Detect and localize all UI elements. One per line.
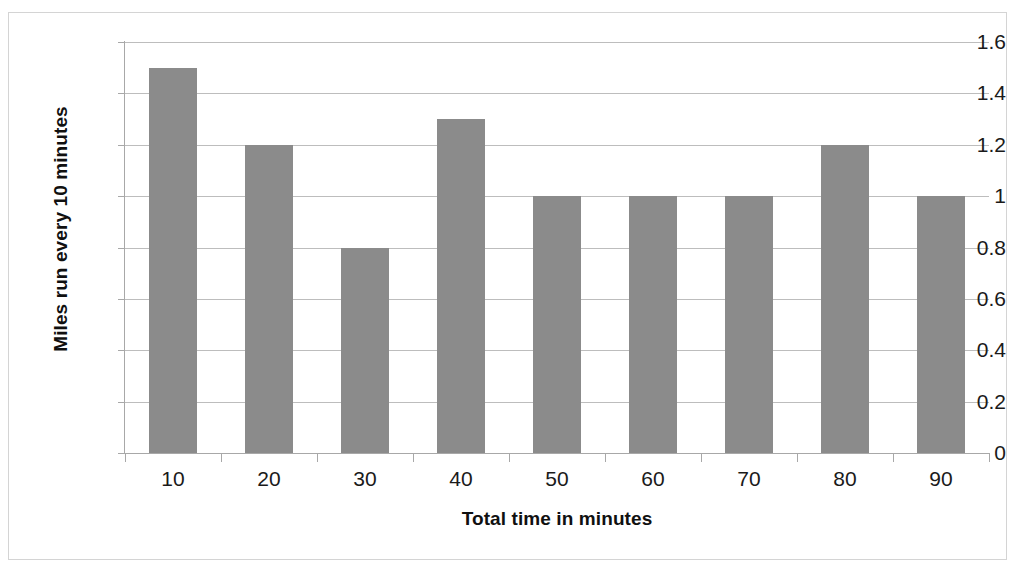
y-axis-label: 1 bbox=[906, 185, 1006, 206]
y-axis-label: 1.6 bbox=[906, 31, 1006, 52]
plot-area bbox=[125, 42, 989, 453]
x-axis-tick bbox=[605, 453, 606, 462]
bars-group bbox=[125, 42, 989, 453]
y-axis-tick bbox=[118, 196, 125, 197]
bar-slot bbox=[821, 42, 869, 453]
bar-slot bbox=[245, 42, 293, 453]
x-axis-label-30: 30 bbox=[317, 468, 413, 489]
x-axis-tick bbox=[509, 453, 510, 462]
y-axis-tick bbox=[118, 299, 125, 300]
gridline-0 bbox=[125, 453, 989, 454]
bar-slot bbox=[725, 42, 773, 453]
y-axis-label: 0.4 bbox=[906, 339, 1006, 360]
x-axis-tick bbox=[221, 453, 222, 462]
chart-frame: 00.20.40.60.811.21.41.6 1020304050607080… bbox=[8, 12, 1007, 560]
bar-slot bbox=[437, 42, 485, 453]
x-axis-tick bbox=[317, 453, 318, 462]
x-axis-label-90: 90 bbox=[893, 468, 989, 489]
y-axis-label: 1.4 bbox=[906, 82, 1006, 103]
y-axis-tick bbox=[118, 350, 125, 351]
bar-slot bbox=[149, 42, 197, 453]
truncated-caption-fragment: athlete ran in the race over time bbox=[0, 0, 560, 3]
bar-40[interactable] bbox=[437, 119, 485, 453]
x-axis-label-40: 40 bbox=[413, 468, 509, 489]
y-axis-tick bbox=[118, 248, 125, 249]
x-axis-label-60: 60 bbox=[605, 468, 701, 489]
x-axis-label-10: 10 bbox=[125, 468, 221, 489]
x-axis-tick bbox=[797, 453, 798, 462]
x-axis-label-70: 70 bbox=[701, 468, 797, 489]
x-axis-label-50: 50 bbox=[509, 468, 605, 489]
y-axis-tick bbox=[118, 93, 125, 94]
bar-slot bbox=[629, 42, 677, 453]
x-axis-tick bbox=[989, 453, 990, 462]
y-axis-tick bbox=[118, 145, 125, 146]
y-axis-label: 0.2 bbox=[906, 391, 1006, 412]
x-axis-tick bbox=[413, 453, 414, 462]
y-axis-label: 0.6 bbox=[906, 288, 1006, 309]
bar-90[interactable] bbox=[917, 196, 965, 453]
bar-slot bbox=[533, 42, 581, 453]
bar-30[interactable] bbox=[341, 248, 389, 454]
x-axis-tick bbox=[893, 453, 894, 462]
bar-70[interactable] bbox=[725, 196, 773, 453]
bar-60[interactable] bbox=[629, 196, 677, 453]
x-axis-title: Total time in minutes bbox=[125, 508, 989, 530]
y-axis-tick bbox=[118, 402, 125, 403]
bar-80[interactable] bbox=[821, 145, 869, 453]
y-axis-label: 0 bbox=[906, 442, 1006, 463]
bar-slot bbox=[341, 42, 389, 453]
x-axis-label-80: 80 bbox=[797, 468, 893, 489]
bar-10[interactable] bbox=[149, 68, 197, 453]
y-axis-tick bbox=[118, 453, 125, 454]
y-axis-title: Miles run every 10 minutes bbox=[50, 59, 72, 399]
x-axis-tick bbox=[701, 453, 702, 462]
bar-50[interactable] bbox=[533, 196, 581, 453]
y-axis-label: 0.8 bbox=[906, 237, 1006, 258]
x-axis-tick bbox=[125, 453, 126, 462]
y-axis-tick bbox=[118, 42, 125, 43]
y-axis-label: 1.2 bbox=[906, 134, 1006, 155]
x-axis-label-20: 20 bbox=[221, 468, 317, 489]
bar-20[interactable] bbox=[245, 145, 293, 453]
